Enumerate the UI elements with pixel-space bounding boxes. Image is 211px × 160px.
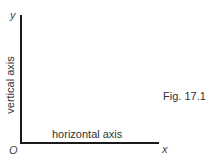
origin-symbol: O [9, 144, 18, 156]
x-axis-symbol: x [162, 143, 168, 155]
horizontal-axis-label: horizontal axis [52, 128, 122, 140]
figure-caption: Fig. 17.1 [163, 90, 206, 102]
vertical-axis-line [20, 15, 22, 144]
vertical-axis-label: vertical axis [4, 56, 16, 113]
horizontal-axis-line [20, 142, 159, 144]
y-axis-symbol: y [10, 9, 16, 21]
